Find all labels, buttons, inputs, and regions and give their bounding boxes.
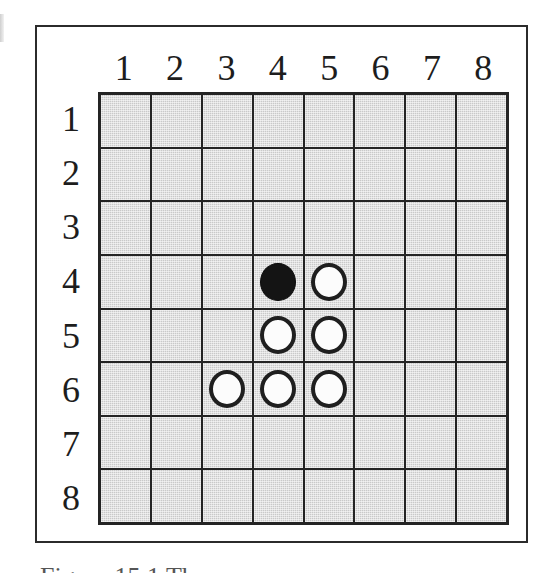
board-grid	[98, 92, 509, 525]
row-header-6: 6	[48, 363, 94, 417]
row-header-3: 3	[48, 200, 94, 254]
board-cell-8-4[interactable]	[457, 256, 506, 308]
board-cell-4-1[interactable]	[254, 95, 303, 147]
board-cell-4-3[interactable]	[254, 202, 303, 254]
othello-board	[98, 92, 509, 525]
figure-caption-clipped: Figure 15.1 The	[40, 564, 340, 573]
row-header-4: 4	[48, 254, 94, 308]
board-cell-4-7[interactable]	[254, 417, 303, 469]
board-cell-7-8[interactable]	[406, 470, 455, 522]
adjacent-figure-sliver	[0, 14, 4, 42]
board-cell-4-2[interactable]	[254, 149, 303, 201]
board-cell-5-7[interactable]	[305, 417, 354, 469]
board-cell-8-8[interactable]	[457, 470, 506, 522]
board-cell-6-8[interactable]	[355, 470, 404, 522]
board-cell-1-1[interactable]	[101, 95, 150, 147]
board-cell-4-8[interactable]	[254, 470, 303, 522]
board-cell-5-3[interactable]	[305, 202, 354, 254]
board-cell-4-6[interactable]	[254, 363, 303, 415]
board-cell-8-7[interactable]	[457, 417, 506, 469]
board-cell-2-8[interactable]	[152, 470, 201, 522]
board-cell-3-1[interactable]	[203, 95, 252, 147]
board-cell-2-2[interactable]	[152, 149, 201, 201]
board-cell-3-7[interactable]	[203, 417, 252, 469]
white-disc-3-6	[209, 370, 245, 408]
board-cell-3-8[interactable]	[203, 470, 252, 522]
board-cell-5-6[interactable]	[305, 363, 354, 415]
board-cell-3-6[interactable]	[203, 363, 252, 415]
board-cell-3-3[interactable]	[203, 202, 252, 254]
board-cell-2-5[interactable]	[152, 310, 201, 362]
board-cell-6-1[interactable]	[355, 95, 404, 147]
board-cell-7-1[interactable]	[406, 95, 455, 147]
white-disc-5-6	[311, 370, 347, 408]
board-cell-5-4[interactable]	[305, 256, 354, 308]
board-cell-6-5[interactable]	[355, 310, 404, 362]
board-cell-3-4[interactable]	[203, 256, 252, 308]
board-cell-2-3[interactable]	[152, 202, 201, 254]
board-cell-5-5[interactable]	[305, 310, 354, 362]
board-cell-6-7[interactable]	[355, 417, 404, 469]
board-cell-1-4[interactable]	[101, 256, 150, 308]
board-cell-3-2[interactable]	[203, 149, 252, 201]
board-cell-6-3[interactable]	[355, 202, 404, 254]
board-cell-1-5[interactable]	[101, 310, 150, 362]
board-column-headers: 12345678	[98, 38, 509, 88]
black-disc-4-4	[260, 263, 296, 301]
board-cell-2-6[interactable]	[152, 363, 201, 415]
white-disc-5-5	[311, 316, 347, 354]
board-cell-7-3[interactable]	[406, 202, 455, 254]
column-header-1: 1	[98, 38, 149, 88]
board-cell-8-5[interactable]	[457, 310, 506, 362]
board-cell-2-1[interactable]	[152, 95, 201, 147]
board-cell-4-4[interactable]	[254, 256, 303, 308]
column-header-5: 5	[304, 38, 355, 88]
board-cell-5-1[interactable]	[305, 95, 354, 147]
board-cell-6-4[interactable]	[355, 256, 404, 308]
board-cell-4-5[interactable]	[254, 310, 303, 362]
board-row-headers: 12345678	[48, 92, 94, 525]
board-cell-1-3[interactable]	[101, 202, 150, 254]
column-header-2: 2	[149, 38, 200, 88]
board-cell-3-5[interactable]	[203, 310, 252, 362]
white-disc-5-4	[311, 263, 347, 301]
board-cell-1-6[interactable]	[101, 363, 150, 415]
board-cell-1-7[interactable]	[101, 417, 150, 469]
white-disc-4-5	[260, 316, 296, 354]
board-cell-6-2[interactable]	[355, 149, 404, 201]
board-cell-8-1[interactable]	[457, 95, 506, 147]
board-cell-2-4[interactable]	[152, 256, 201, 308]
column-header-6: 6	[355, 38, 406, 88]
board-cell-8-3[interactable]	[457, 202, 506, 254]
board-cell-7-6[interactable]	[406, 363, 455, 415]
board-cell-6-6[interactable]	[355, 363, 404, 415]
board-cell-2-7[interactable]	[152, 417, 201, 469]
board-cell-7-2[interactable]	[406, 149, 455, 201]
board-cell-7-4[interactable]	[406, 256, 455, 308]
board-cell-7-7[interactable]	[406, 417, 455, 469]
row-header-5: 5	[48, 309, 94, 363]
board-cell-5-8[interactable]	[305, 470, 354, 522]
board-cell-1-2[interactable]	[101, 149, 150, 201]
row-header-1: 1	[48, 92, 94, 146]
column-header-7: 7	[406, 38, 457, 88]
board-cell-8-6[interactable]	[457, 363, 506, 415]
row-header-2: 2	[48, 146, 94, 200]
white-disc-4-6	[260, 370, 296, 408]
board-cell-7-5[interactable]	[406, 310, 455, 362]
board-cell-1-8[interactable]	[101, 470, 150, 522]
board-cell-5-2[interactable]	[305, 149, 354, 201]
column-header-8: 8	[458, 38, 509, 88]
column-header-3: 3	[201, 38, 252, 88]
row-header-8: 8	[48, 471, 94, 525]
column-header-4: 4	[252, 38, 303, 88]
row-header-7: 7	[48, 417, 94, 471]
board-cell-8-2[interactable]	[457, 149, 506, 201]
